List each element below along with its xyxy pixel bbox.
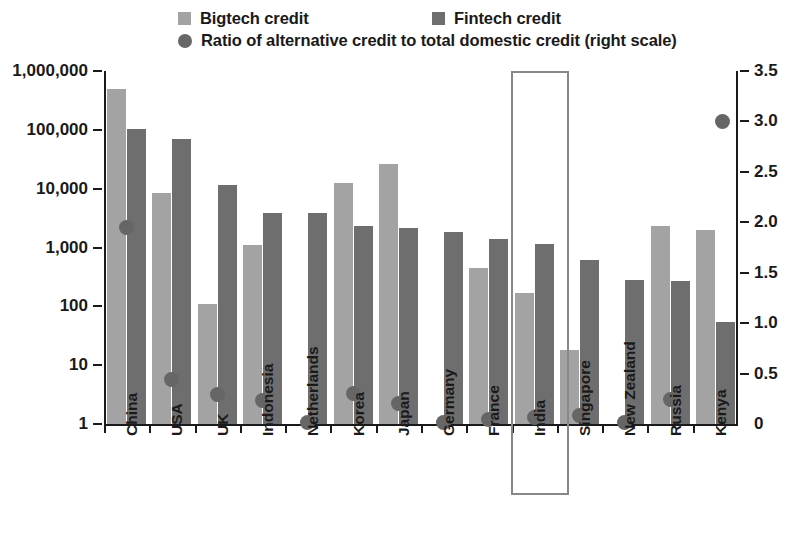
- circle-marker-icon: [178, 34, 192, 48]
- x-axis-label: Germany: [440, 369, 458, 436]
- chart-legend: Bigtech credit Fintech credit Ratio of a…: [0, 0, 806, 56]
- x-axis-label: New Zealand: [621, 341, 639, 436]
- x-axis-label: Russia: [667, 385, 685, 436]
- bar-bigtech: [107, 89, 126, 424]
- x-axis-tick: [693, 426, 695, 433]
- x-axis-tick: [421, 426, 423, 433]
- ratio-marker: [164, 372, 179, 387]
- ratio-marker: [210, 387, 225, 402]
- y-axis-right-tick: [740, 221, 749, 223]
- x-axis-label: UK: [214, 414, 232, 436]
- x-axis-tick: [557, 426, 559, 433]
- y-axis-right-tick-label: 2.0: [754, 212, 806, 232]
- x-axis-tick: [602, 426, 604, 433]
- y-axis-left-tick-label: 10,000: [0, 179, 88, 199]
- y-axis-right-tick: [740, 272, 749, 274]
- y-axis-left-tick-label: 1,000: [0, 238, 88, 258]
- x-axis-tick: [330, 426, 332, 433]
- y-axis-left-tick: [93, 423, 102, 425]
- square-swatch-icon: [432, 12, 445, 25]
- bar-fintech: [535, 244, 554, 424]
- y-axis-right-tick: [740, 70, 749, 72]
- bar-bigtech: [152, 193, 171, 424]
- x-axis-label: France: [485, 385, 503, 436]
- y-axis-right-tick-label: 0.5: [754, 364, 806, 384]
- x-axis-label: Singapore: [576, 360, 594, 436]
- y-axis-right-tick-label: 1.0: [754, 313, 806, 333]
- y-axis-right-tick-label: 1.5: [754, 263, 806, 283]
- y-axis-left-tick-label: 1,000,000: [0, 61, 88, 81]
- y-axis-left-tick-label: 100: [0, 296, 88, 316]
- x-axis-tick: [647, 426, 649, 433]
- x-axis-label: USA: [168, 403, 186, 436]
- y-axis-right-tick: [740, 171, 749, 173]
- y-axis-left-tick-label: 100,000: [0, 120, 88, 140]
- y-axis-right-tick: [740, 373, 749, 375]
- plot-area: [104, 71, 738, 424]
- x-axis-tick: [512, 426, 514, 433]
- x-axis-tick: [104, 426, 106, 433]
- y-axis-left-tick-label: 10: [0, 355, 88, 375]
- y-axis-right-tick-label: 3.5: [754, 61, 806, 81]
- x-axis-tick: [149, 426, 151, 433]
- y-axis-right-tick: [740, 322, 749, 324]
- y-axis-left-tick: [93, 247, 102, 249]
- y-axis-left-tick: [93, 70, 102, 72]
- square-swatch-icon: [178, 12, 191, 25]
- y-axis-left-tick: [93, 364, 102, 366]
- legend-label-ratio: Ratio of alternative credit to total dom…: [201, 31, 677, 50]
- x-axis-label: Indonesia: [259, 364, 277, 436]
- legend-item-fintech: Fintech credit: [432, 9, 561, 28]
- x-axis-label: Kenya: [712, 389, 730, 436]
- x-axis-tick: [466, 426, 468, 433]
- y-axis-left-tick: [93, 129, 102, 131]
- y-axis-left-tick-label: 1: [0, 414, 88, 434]
- x-axis-label: Korea: [350, 392, 368, 436]
- x-axis-tick: [195, 426, 197, 433]
- y-axis-right-tick: [740, 120, 749, 122]
- y-axis-left-tick: [93, 305, 102, 307]
- y-axis-left-tick: [93, 188, 102, 190]
- x-axis-tick: [376, 426, 378, 433]
- chart-container: Bigtech credit Fintech credit Ratio of a…: [0, 0, 806, 545]
- y-axis-right-tick-label: 0: [754, 414, 806, 434]
- x-axis-tick: [285, 426, 287, 433]
- x-axis-label: China: [123, 393, 141, 436]
- x-axis-label: Netherlands: [304, 346, 322, 436]
- bar-fintech: [127, 129, 146, 424]
- legend-label-fintech: Fintech credit: [454, 9, 561, 28]
- bar-bigtech: [198, 304, 217, 424]
- bar-bigtech: [379, 164, 398, 424]
- x-axis-tick: [240, 426, 242, 433]
- y-axis-right-tick-label: 2.5: [754, 162, 806, 182]
- x-axis-label: India: [531, 400, 549, 436]
- legend-item-bigtech: Bigtech credit: [178, 9, 309, 28]
- legend-label-bigtech: Bigtech credit: [200, 9, 309, 28]
- x-axis-label: Japan: [395, 391, 413, 436]
- y-axis-right-tick-label: 3.0: [754, 111, 806, 131]
- legend-item-ratio: Ratio of alternative credit to total dom…: [178, 31, 677, 50]
